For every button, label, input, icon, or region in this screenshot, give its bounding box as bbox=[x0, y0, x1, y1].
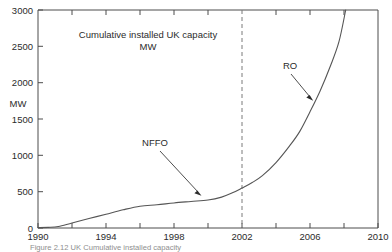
x-tick-label: 1990 bbox=[27, 231, 48, 242]
y-tick-label: 3000 bbox=[12, 5, 33, 16]
x-axis-tick-labels: 1990 1994 1998 2002 2006 2010 bbox=[27, 231, 388, 242]
y-tick-label: 1500 bbox=[12, 114, 33, 125]
capacity-line-chart: 0 500 1000 1500 2000 2500 3000 MW 1990 1… bbox=[0, 0, 392, 252]
y-tick-label: 1000 bbox=[12, 150, 33, 161]
plot-title-line1: Cumulative installed UK capacity bbox=[79, 29, 218, 40]
annotation-nffo-label: NFFO bbox=[142, 137, 168, 148]
x-tick-label: 1998 bbox=[163, 231, 184, 242]
annotation-ro-label: RO bbox=[283, 60, 297, 71]
y-tick-label: 2500 bbox=[12, 41, 33, 52]
figure-container: 0 500 1000 1500 2000 2500 3000 MW 1990 1… bbox=[0, 0, 392, 252]
y-axis-tick-labels: 0 500 1000 1500 2000 2500 3000 bbox=[12, 5, 33, 234]
x-tick-label: 2006 bbox=[299, 231, 320, 242]
x-tick-label: 2010 bbox=[367, 231, 388, 242]
plot-title-line2: MW bbox=[140, 41, 157, 52]
y-tick-label: 500 bbox=[17, 186, 33, 197]
x-tick-label: 1994 bbox=[95, 231, 116, 242]
figure-caption: Figure 2.12 UK Cumulative installed capa… bbox=[30, 243, 181, 252]
y-tick-label: 2000 bbox=[12, 77, 33, 88]
y-axis-title: MW bbox=[10, 98, 27, 109]
plot-background bbox=[38, 10, 378, 228]
x-tick-label: 2002 bbox=[231, 231, 252, 242]
